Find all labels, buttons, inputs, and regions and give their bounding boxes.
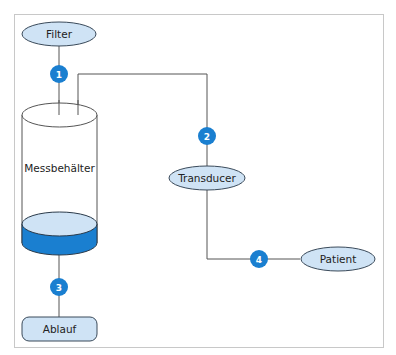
patient-node: Patient [301, 247, 375, 271]
badge-1: 1 [50, 65, 68, 83]
container-label: Messbehälter [24, 162, 95, 174]
badge-3: 3 [50, 278, 68, 296]
svg-text:1: 1 [56, 70, 62, 80]
diagram-canvas: Filter Messbehälter Transducer Patient A… [0, 0, 396, 355]
filter-label: Filter [46, 28, 73, 40]
liquid-surface [22, 212, 97, 236]
svg-text:3: 3 [56, 283, 62, 293]
badge-4: 4 [250, 250, 268, 268]
filter-node: Filter [22, 22, 96, 46]
patient-label: Patient [320, 253, 357, 265]
transducer-label: Transducer [177, 172, 236, 184]
svg-text:2: 2 [204, 132, 210, 142]
badge-2: 2 [198, 127, 216, 145]
transducer-node: Transducer [169, 166, 245, 190]
drain-label: Ablauf [43, 323, 77, 335]
drain-node: Ablauf [22, 317, 97, 341]
svg-text:4: 4 [256, 255, 262, 265]
